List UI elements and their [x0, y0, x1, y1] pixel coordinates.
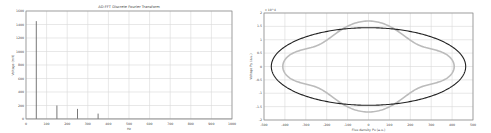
x-tick-label: 500 [470, 123, 476, 127]
y-tick-label: 800 [18, 63, 24, 67]
phase-plot-svg: -500-400-300-200-1000100200300400500-2-1… [245, 0, 491, 133]
y-tick-label: 400 [18, 90, 24, 94]
x-axis-label: Flux density Px (a.u.) [352, 128, 386, 132]
x-tick-label: 700 [167, 122, 173, 126]
x-tick-label: 100 [44, 122, 50, 126]
y-tick-label: 0 [260, 65, 262, 69]
x-tick-label: -500 [260, 123, 267, 127]
x-tick-label: 200 [64, 122, 70, 126]
y-axis-label: Voltage (mV) [11, 55, 15, 76]
x-tick-label: 900 [208, 122, 214, 126]
y-tick-label: 1200 [16, 36, 24, 40]
x-tick-label: 100 [386, 123, 392, 127]
x-tick-label: 300 [85, 122, 91, 126]
y-tick-label: 1600 [16, 9, 24, 13]
y-tick-label: -1 [259, 91, 262, 95]
x-tick-label: 400 [105, 122, 111, 126]
x-tick-label: 0 [367, 123, 369, 127]
y-tick-label: -0.5 [256, 78, 262, 82]
y-tick-label: 0.5 [257, 51, 262, 55]
x-tick-label: -400 [281, 123, 288, 127]
y-tick-label: 1000 [16, 50, 24, 54]
y-tick-label: 0 [22, 117, 24, 121]
y-tick-label: 600 [18, 77, 24, 81]
x-tick-label: 600 [147, 122, 153, 126]
x-tick-label: 800 [188, 122, 194, 126]
y-tick-label: 200 [18, 104, 24, 108]
x-tick-label: -200 [323, 123, 330, 127]
chart-title: AD-FFT Discrete Fourier Transform [98, 5, 160, 9]
x-tick-label: 400 [449, 123, 455, 127]
y-tick-label: 1 [260, 38, 262, 42]
x-tick-label: 500 [126, 122, 132, 126]
y-tick-label: 1.5 [257, 24, 262, 28]
y-tick-label: 2 [260, 11, 262, 15]
x-tick-label: 1000 [228, 122, 236, 126]
y-tick-label: 1400 [16, 23, 24, 27]
fft-chart: 0100200300400500600700800900100002004006… [0, 0, 245, 133]
y-exponent-label: x 10^4 [265, 8, 276, 12]
x-tick-label: 0 [25, 122, 27, 126]
fft-chart-svg: 0100200300400500600700800900100002004006… [0, 0, 245, 133]
x-tick-label: 300 [428, 123, 434, 127]
phase-plot-chart: -500-400-300-200-1000100200300400500-2-1… [245, 0, 491, 133]
y-tick-label: -1.5 [256, 105, 262, 109]
y-tick-label: -2 [259, 118, 262, 122]
x-axis-label: Hz [127, 127, 131, 131]
x-tick-label: -100 [344, 123, 351, 127]
x-tick-label: 200 [407, 123, 413, 127]
y-axis-label: Voltage Py (a.u.) [249, 53, 253, 79]
x-tick-label: -300 [302, 123, 309, 127]
